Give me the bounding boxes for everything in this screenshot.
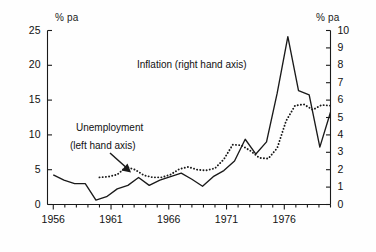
- plot-svg: [0, 0, 376, 252]
- axis-ticks: [48, 31, 331, 210]
- inflation-line: [53, 37, 330, 201]
- unemployment-arrow-icon: [110, 153, 131, 173]
- chart-container: % pa % pa Inflation (right hand axis) Un…: [0, 0, 376, 252]
- unemployment-line: [99, 104, 330, 177]
- data-series-layer: [53, 37, 330, 201]
